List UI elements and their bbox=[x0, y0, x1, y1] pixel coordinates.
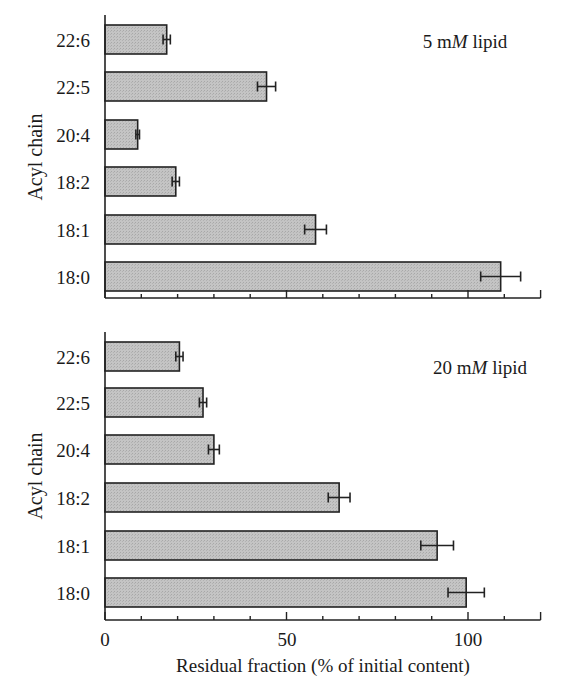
bar-18-2: 18:2 bbox=[56, 483, 350, 512]
bar bbox=[105, 342, 179, 371]
bar-22-6: 22:6 bbox=[56, 342, 183, 371]
bar bbox=[105, 531, 437, 560]
bar-group: 22:622:520:418:218:118:0 bbox=[56, 25, 520, 291]
panel-5mM: 22:622:520:418:218:118:0 5 mM lipid Acyl… bbox=[24, 15, 541, 298]
bar-18-2: 18:2 bbox=[56, 167, 179, 196]
bar bbox=[105, 388, 203, 417]
x-tick-label: 0 bbox=[100, 629, 110, 650]
bar bbox=[105, 215, 316, 244]
y-tick-label: 22:6 bbox=[56, 30, 90, 51]
bar-20-4: 20:4 bbox=[56, 435, 219, 464]
bar-18-0: 18:0 bbox=[56, 262, 520, 291]
bar-20-4: 20:4 bbox=[56, 120, 139, 149]
x-tick-label: 100 bbox=[454, 629, 483, 650]
y-tick-label: 18:1 bbox=[56, 220, 90, 241]
y-tick-label: 18:2 bbox=[56, 172, 90, 193]
bar bbox=[105, 167, 176, 196]
bar bbox=[105, 262, 501, 291]
bar bbox=[105, 120, 138, 149]
y-tick-label: 18:0 bbox=[56, 267, 90, 288]
bar-22-6: 22:6 bbox=[56, 25, 170, 54]
bar-group: 22:622:520:418:218:118:0 bbox=[56, 342, 484, 607]
x-axis-label: Residual fraction (% of initial content) bbox=[176, 655, 470, 677]
y-tick-label: 18:0 bbox=[56, 583, 90, 604]
panel-annotation: 5 mM lipid bbox=[423, 31, 508, 52]
y-tick-label: 22:5 bbox=[56, 77, 90, 98]
y-axis-label: Acyl chain bbox=[24, 432, 47, 519]
bar bbox=[105, 25, 167, 54]
panel-annotation: 20 mM lipid bbox=[433, 357, 527, 378]
bar-chart-figure: 22:622:520:418:218:118:0 5 mM lipid Acyl… bbox=[0, 0, 563, 700]
bar bbox=[105, 483, 339, 512]
panel-20mM: 22:622:520:418:218:118:0 20 mM lipid Acy… bbox=[24, 332, 541, 620]
bar-22-5: 22:5 bbox=[56, 388, 206, 417]
bar bbox=[105, 435, 214, 464]
y-tick-label: 22:5 bbox=[56, 393, 90, 414]
bar-22-5: 22:5 bbox=[56, 72, 275, 101]
y-tick-label: 22:6 bbox=[56, 347, 90, 368]
y-axis-label: Acyl chain bbox=[24, 113, 47, 200]
y-tick-label: 20:4 bbox=[56, 125, 90, 146]
bar-18-1: 18:1 bbox=[56, 215, 326, 244]
bar-18-1: 18:1 bbox=[56, 531, 453, 560]
y-tick-label: 20:4 bbox=[56, 440, 90, 461]
bar bbox=[105, 72, 267, 101]
axes bbox=[105, 15, 541, 298]
bar bbox=[105, 578, 466, 607]
y-tick-label: 18:1 bbox=[56, 536, 90, 557]
y-tick-label: 18:2 bbox=[56, 488, 90, 509]
x-tick-labels: 0 50 100 bbox=[100, 629, 482, 650]
x-tick-label: 50 bbox=[278, 629, 297, 650]
bar-18-0: 18:0 bbox=[56, 578, 484, 607]
